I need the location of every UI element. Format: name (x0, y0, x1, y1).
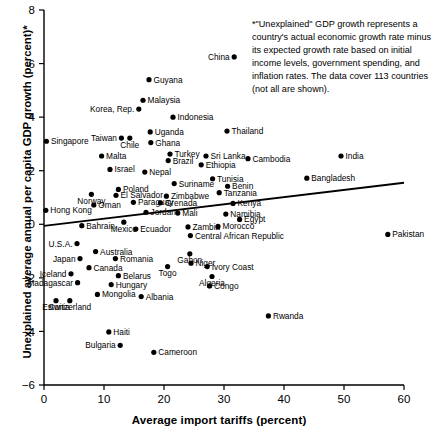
data-point: Bulgaria (85, 340, 123, 350)
data-point: Hungary (109, 280, 148, 290)
point-marker (146, 77, 151, 82)
point-marker (140, 98, 145, 103)
point-label: Pakistan (392, 229, 424, 239)
point-label: Indonesia (178, 112, 214, 122)
point-label: Mongolia (102, 289, 136, 299)
point-marker (175, 210, 180, 215)
data-point: Togo (159, 264, 177, 278)
data-point: Thailand (224, 126, 263, 136)
point-label: Togo (159, 268, 177, 278)
point-label: Switzerland (48, 302, 91, 312)
data-point: Ivory Coast (205, 262, 255, 272)
point-marker (106, 329, 111, 334)
point-marker (43, 208, 48, 213)
point-marker (385, 232, 390, 237)
point-marker (158, 200, 163, 205)
point-marker (205, 264, 210, 269)
point-marker (266, 313, 271, 318)
point-marker (148, 140, 153, 145)
point-label: Ecuador (140, 224, 171, 234)
point-marker (185, 224, 190, 229)
point-marker (75, 280, 80, 285)
point-label: Nepal (149, 167, 171, 177)
point-marker (245, 156, 250, 161)
point-marker (68, 271, 73, 276)
point-marker (113, 256, 118, 261)
point-label: Brazil (173, 156, 194, 166)
point-marker (133, 227, 138, 232)
data-point: Central African Republic (188, 231, 284, 241)
data-point: Rwanda (266, 311, 304, 321)
point-label: Hungary (116, 280, 148, 290)
point-label: Haiti (113, 327, 130, 337)
point-marker (151, 350, 156, 355)
point-label: U.S.A. (49, 239, 73, 249)
point-marker (230, 201, 235, 206)
point-marker (86, 265, 91, 270)
data-point: Indonesia (170, 112, 213, 122)
point-label: Mali (182, 208, 197, 218)
point-label: Japan (53, 254, 76, 264)
point-marker (113, 193, 118, 198)
point-marker (131, 200, 136, 205)
point-label: Cambodia (253, 154, 291, 164)
point-marker (215, 224, 220, 229)
point-marker (74, 241, 79, 246)
point-label: Madagascar (27, 278, 73, 288)
data-point: Japan (53, 254, 83, 264)
data-point: Bahrain (79, 221, 115, 231)
point-marker (166, 158, 171, 163)
point-marker (217, 190, 222, 195)
point-label: Hong Kong (50, 205, 92, 215)
chart-annotation-note: *"Unexplained" GDP growth represents a c… (252, 18, 436, 95)
point-label: Oman (98, 200, 121, 210)
point-marker (170, 115, 175, 120)
point-marker (107, 167, 112, 172)
data-point: Albania (139, 292, 174, 302)
data-point: Brazil (166, 156, 194, 166)
point-marker (142, 169, 147, 174)
point-marker (188, 233, 193, 238)
data-point: Haiti (106, 327, 130, 337)
point-marker (338, 153, 343, 158)
data-point: Tanzania (217, 188, 258, 198)
data-point: Taiwan (91, 133, 124, 143)
data-point: Suriname (172, 179, 215, 189)
point-label: Cameroon (158, 347, 197, 357)
data-point: Kenya (230, 198, 261, 208)
point-label: Tanzania (224, 188, 258, 198)
point-label: Albania (146, 292, 174, 302)
point-label: Bangladesh (311, 173, 355, 183)
point-label: Uganda (155, 127, 184, 137)
point-marker (232, 54, 237, 59)
data-point: Bangladesh (304, 173, 355, 183)
data-point: Israel (107, 164, 135, 174)
point-label: Thailand (232, 126, 264, 136)
data-point: Ghana (148, 138, 180, 148)
point-label: Rwanda (273, 311, 304, 321)
point-label: Malaysia (148, 95, 181, 105)
point-label: India (346, 151, 364, 161)
data-point: Malta (99, 151, 127, 161)
point-label: Ethiopia (206, 160, 236, 170)
point-marker (91, 202, 96, 207)
data-point: Singapore (44, 136, 89, 146)
data-point: Madagascar (27, 278, 80, 288)
point-label: Israel (115, 164, 135, 174)
point-marker (79, 223, 84, 228)
x-tick-label: 0 (41, 393, 47, 405)
point-label: Ivory Coast (212, 262, 255, 272)
point-label: Jordan (151, 207, 177, 217)
point-marker (136, 107, 141, 112)
x-axis-title: Average import tariffs (percent) (0, 414, 438, 426)
data-point: Korea, Rep. (90, 104, 141, 114)
x-tick-label: 40 (278, 393, 291, 405)
point-label: Bulgaria (85, 340, 116, 350)
data-point: Canada (86, 263, 123, 273)
data-point: Ecuador (133, 224, 171, 234)
data-point: U.S.A. (49, 239, 80, 249)
data-point: Guyana (146, 75, 183, 85)
point-marker (172, 181, 177, 186)
x-tick-label: 50 (338, 393, 351, 405)
point-label: Central African Republic (195, 231, 284, 241)
